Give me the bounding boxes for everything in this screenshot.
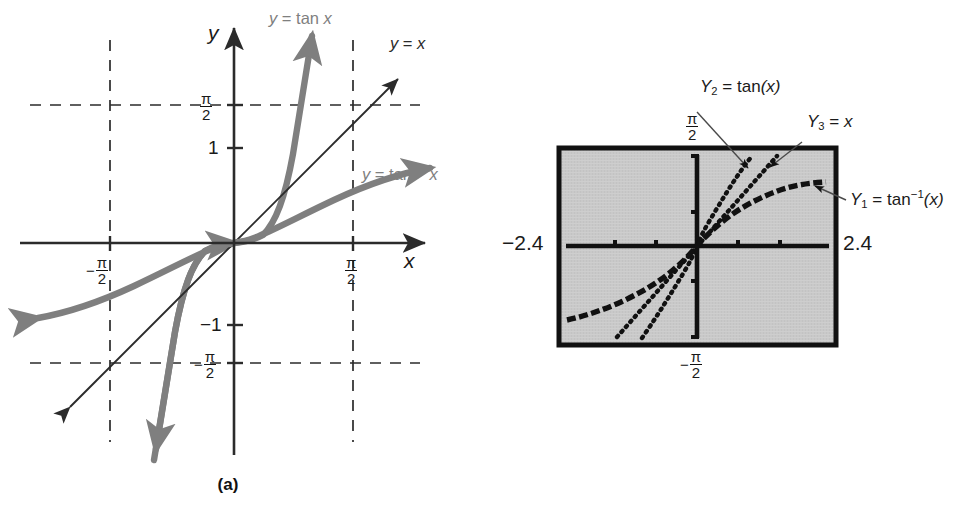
panel-a-svg — [0, 0, 490, 470]
minus-sign: − — [194, 357, 204, 372]
pi-numerator: π — [345, 255, 357, 271]
pi-numerator: π — [690, 349, 702, 365]
panel-b-callout-label-Y1: Y1 = tan−1(x) — [850, 189, 944, 210]
lhs-y: y — [269, 9, 277, 27]
arg-x: x — [429, 165, 437, 183]
fn-tan: tan — [737, 77, 761, 96]
exponent-neg-one: −1 — [412, 163, 425, 175]
fn-tan: tan — [887, 190, 911, 209]
panel-b-xmin-label: −2.4 — [502, 232, 543, 253]
fn-tan: tan — [296, 9, 319, 27]
panel-a-ytick-label-neg-one: −1 — [200, 315, 222, 334]
equals-sign: = — [829, 112, 839, 131]
minus-sign: − — [680, 357, 690, 372]
panel-b-svg — [490, 0, 980, 470]
panel-a-y-axis-label: y — [208, 22, 219, 43]
panel-a-xtick-label-neg-pi-over-2: −π2 — [86, 255, 108, 287]
two-denominator: 2 — [686, 127, 698, 142]
two-denominator: 2 — [345, 271, 357, 286]
panel-a-caption: (a) — [208, 475, 248, 495]
two-denominator: 2 — [96, 271, 108, 286]
panel-b-xmax-label: 2.4 — [843, 232, 872, 253]
subscript-2: 2 — [711, 85, 717, 97]
panel-a-curve-label-identity: y = x — [390, 35, 425, 52]
arg-x: x — [324, 9, 332, 27]
lhs-y: y — [362, 165, 370, 183]
panel-a-ytick-label-one: 1 — [208, 138, 219, 157]
arg-x: x — [844, 112, 853, 131]
pi-numerator: π — [200, 91, 212, 107]
equals-sign: = — [872, 190, 882, 209]
panel-a-xtick-label-pi-over-2: π2 — [345, 255, 357, 287]
arg-paren-x: (x) — [924, 190, 944, 209]
minus-sign: − — [86, 263, 96, 278]
curve-tan-left-branch-arrowfix — [156, 243, 234, 449]
arg-paren-x: (x) — [761, 77, 781, 96]
panel-b-callout-label-Y2: Y2 = tan(x) — [700, 78, 780, 97]
panel-b-ymin-label-neg-pi-over-2: −π2 — [680, 349, 702, 381]
panel-b-calculator-view: π2 −π2 −2.4 2.4 Y2 = tan(x) Y3 = x Y1 = … — [490, 0, 980, 517]
curve-tan-right-branch — [234, 36, 312, 243]
panel-a-ytick-label-pi-over-2: π2 — [200, 91, 212, 123]
subscript-1: 1 — [861, 198, 867, 210]
panel-b-ymax-label-pi-over-2: π2 — [686, 111, 698, 143]
arg-x: x — [417, 34, 425, 52]
exponent-neg-one: −1 — [911, 188, 924, 200]
series-name-Y: Y — [850, 190, 861, 209]
panel-b-callout-label-Y3: Y3 = x — [807, 113, 853, 132]
panel-a-ytick-label-neg-pi-over-2: −π2 — [194, 349, 216, 381]
panel-a-curve-label-tan: y = tan x — [269, 10, 332, 27]
pi-numerator: π — [204, 349, 216, 365]
panel-a-graph: y x π2 1 −1 −π2 −π2 π2 y = tan x y = x y… — [0, 0, 490, 517]
equals-sign: = — [722, 77, 732, 96]
two-denominator: 2 — [204, 365, 216, 380]
panel-a-curve-label-arctan: y = tan−1 x — [362, 164, 438, 182]
series-name-Y: Y — [807, 112, 818, 131]
two-denominator: 2 — [690, 365, 702, 380]
panel-a-ticks — [110, 105, 353, 363]
series-name-Y: Y — [700, 77, 711, 96]
lhs-y: y — [390, 34, 398, 52]
fn-tan: tan — [389, 165, 412, 183]
pi-numerator: π — [96, 255, 108, 271]
panel-a-x-axis-label: x — [404, 250, 415, 271]
figure-root: y x π2 1 −1 −π2 −π2 π2 y = tan x y = x y… — [0, 0, 980, 517]
subscript-3: 3 — [818, 120, 824, 132]
pi-numerator: π — [686, 111, 698, 127]
two-denominator: 2 — [200, 107, 212, 122]
